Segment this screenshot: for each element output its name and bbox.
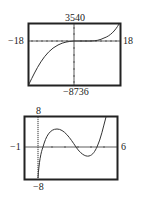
chart-1 <box>29 24 121 86</box>
chart-1-xmax-label: 18 <box>123 36 133 46</box>
chart-2-ymin-label: −8 <box>33 182 44 192</box>
chart-2 <box>25 117 118 180</box>
chart-1-ymin-label: −8736 <box>63 87 89 97</box>
charts-canvas <box>0 0 144 201</box>
chart-2-xmin-label: −1 <box>10 142 21 152</box>
chart-2-xmax-label: 6 <box>121 142 126 152</box>
chart-1-xmin-label: −18 <box>8 36 24 46</box>
chart-2-curve <box>38 117 106 178</box>
chart-1-ymax-label: 3540 <box>65 13 85 23</box>
chart-2-ymax-label: 8 <box>36 106 41 116</box>
